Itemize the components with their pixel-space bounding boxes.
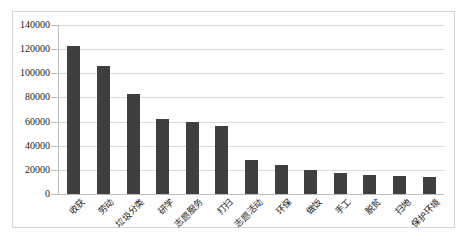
value-axis-tick bbox=[51, 25, 58, 26]
bar[interactable] bbox=[97, 66, 110, 194]
bar[interactable] bbox=[304, 170, 317, 194]
bar[interactable] bbox=[275, 165, 288, 194]
value-axis-label: 100000 bbox=[20, 68, 50, 78]
category-axis-label: 志愿服务 bbox=[173, 197, 206, 230]
value-axis-line bbox=[58, 25, 59, 195]
bar[interactable] bbox=[363, 175, 376, 194]
gridline bbox=[59, 122, 444, 123]
category-axis-label: 志愿活动 bbox=[233, 197, 266, 230]
value-axis-tick bbox=[51, 146, 58, 147]
value-axis-tick bbox=[51, 194, 58, 195]
bar[interactable] bbox=[423, 177, 436, 194]
value-axis-tick bbox=[51, 122, 58, 123]
bar[interactable] bbox=[186, 122, 199, 194]
value-axis-label: 20000 bbox=[25, 165, 50, 175]
value-axis-label: 60000 bbox=[25, 117, 50, 127]
plot-area: 020000400006000080000100000120000140000 bbox=[59, 25, 444, 194]
category-axis-label: 垃圾分类 bbox=[114, 197, 147, 230]
category-axis-label: 环保 bbox=[274, 197, 295, 218]
bar[interactable] bbox=[393, 176, 406, 194]
value-axis-label: 80000 bbox=[25, 92, 50, 102]
category-axis-label: 劳动 bbox=[96, 197, 117, 218]
category-axis-label: 扫地 bbox=[393, 197, 414, 218]
bar[interactable] bbox=[245, 160, 258, 194]
category-axis-label: 打扫 bbox=[215, 197, 236, 218]
bar[interactable] bbox=[67, 46, 80, 194]
bar[interactable] bbox=[334, 173, 347, 194]
category-axis-label: 脱贫 bbox=[363, 197, 384, 218]
category-axis-label: 做饭 bbox=[304, 197, 325, 218]
value-axis-tick bbox=[51, 49, 58, 50]
gridline bbox=[59, 146, 444, 147]
value-axis-tick bbox=[51, 170, 58, 171]
value-axis-label: 120000 bbox=[20, 44, 50, 54]
chart-frame: 020000400006000080000100000120000140000 … bbox=[12, 11, 455, 228]
bar[interactable] bbox=[156, 119, 169, 194]
category-axis-label: 保护环境 bbox=[410, 197, 443, 230]
gridline bbox=[59, 49, 444, 50]
bar[interactable] bbox=[215, 126, 228, 194]
value-axis-label: 140000 bbox=[20, 20, 50, 30]
value-axis-label: 0 bbox=[45, 189, 50, 199]
gridline bbox=[59, 25, 444, 26]
value-axis-tick bbox=[51, 97, 58, 98]
bar[interactable] bbox=[127, 94, 140, 194]
category-axis-label: 收获 bbox=[67, 197, 88, 218]
category-axis-labels: 收获劳动垃圾分类研学志愿服务打扫志愿活动环保做饭手工脱贫扫地保护环境 bbox=[59, 195, 444, 239]
gridline bbox=[59, 73, 444, 74]
gridline bbox=[59, 97, 444, 98]
value-axis-label: 40000 bbox=[25, 141, 50, 151]
category-axis-label: 研学 bbox=[156, 197, 177, 218]
value-axis-tick bbox=[51, 73, 58, 74]
category-axis-label: 手工 bbox=[333, 197, 354, 218]
